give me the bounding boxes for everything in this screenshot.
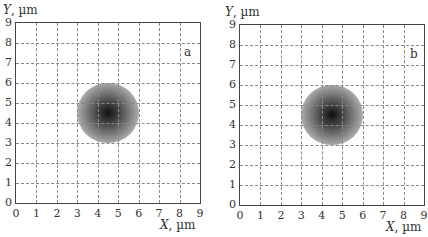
grid-line-horizontal [16, 83, 200, 84]
x-tick-label: 0 [10, 208, 22, 219]
grid-line-vertical [383, 25, 384, 205]
x-tick-label: 3 [295, 210, 307, 221]
y-tick-label: 4 [0, 117, 12, 128]
y-tick-label: 2 [0, 157, 12, 168]
y-tick-label: 1 [224, 179, 236, 190]
grid-line-vertical [77, 23, 78, 203]
grid-line-horizontal [240, 105, 424, 106]
grid-line-vertical [404, 25, 405, 205]
x-axis-unit: , µm [169, 218, 196, 232]
x-axis-var: X [386, 220, 395, 234]
grid-line-horizontal [240, 65, 424, 66]
y-tick-label: 1 [0, 177, 12, 188]
grid-line-vertical [180, 23, 181, 203]
x-tick-label: 1 [30, 208, 42, 219]
grid-line-vertical [281, 25, 282, 205]
panel-tag: b [410, 48, 418, 60]
y-tick-label: 0 [224, 199, 236, 210]
grid-line-vertical [139, 23, 140, 203]
plot-area [239, 24, 425, 206]
y-axis-label: Y, µm [3, 4, 38, 16]
x-tick-label: 5 [112, 208, 124, 219]
x-tick-label: 6 [133, 208, 145, 219]
y-tick-label: 5 [224, 99, 236, 110]
grid-line-vertical [36, 23, 37, 203]
y-axis-var: Y [225, 5, 233, 19]
y-tick-label: 9 [224, 19, 236, 30]
y-tick-label: 5 [0, 97, 12, 108]
grid-line-horizontal [240, 145, 424, 146]
x-tick-label: 2 [51, 208, 63, 219]
grid-line-horizontal [240, 125, 424, 126]
grid-line-vertical [159, 23, 160, 203]
intensity-spot [77, 83, 138, 143]
x-tick-label: 4 [316, 210, 328, 221]
grid-line-vertical [260, 25, 261, 205]
y-tick-label: 4 [224, 119, 236, 130]
x-tick-label: 5 [336, 210, 348, 221]
y-tick-label: 2 [224, 159, 236, 170]
grid-line-vertical [322, 25, 323, 205]
grid-line-horizontal [240, 185, 424, 186]
grid-line-horizontal [16, 43, 200, 44]
y-tick-label: 6 [0, 77, 12, 88]
x-axis-label: X, µm [386, 221, 421, 233]
grid-line-horizontal [16, 103, 200, 104]
grid-line-horizontal [240, 85, 424, 86]
x-axis-label: X, µm [160, 219, 195, 231]
grid-line-horizontal [240, 45, 424, 46]
x-tick-label: 0 [234, 210, 246, 221]
grid-line-vertical [301, 25, 302, 205]
y-tick-label: 8 [224, 39, 236, 50]
y-tick-label: 3 [0, 137, 12, 148]
grid-line-vertical [342, 25, 343, 205]
y-axis-unit: , µm [233, 5, 260, 19]
y-tick-label: 3 [224, 139, 236, 150]
x-axis-var: X [160, 218, 169, 232]
y-tick-label: 0 [0, 197, 12, 208]
y-axis-label: Y, µm [225, 6, 260, 18]
panel-a: Y, µm 0123456789 0123456789 a X, µm [0, 0, 214, 237]
x-tick-label: 4 [92, 208, 104, 219]
y-tick-label: 6 [224, 79, 236, 90]
grid-line-vertical [57, 23, 58, 203]
y-axis-var: Y [3, 3, 11, 17]
grid-line-horizontal [16, 183, 200, 184]
y-axis-unit: , µm [11, 3, 38, 17]
grid-line-horizontal [240, 165, 424, 166]
y-tick-label: 7 [224, 59, 236, 70]
x-tick-label: 6 [357, 210, 369, 221]
x-axis-unit: , µm [395, 220, 422, 234]
grid-line-horizontal [16, 163, 200, 164]
grid-line-horizontal [16, 143, 200, 144]
panel-tag: a [184, 46, 191, 58]
grid-line-vertical [118, 23, 119, 203]
grid-line-horizontal [16, 63, 200, 64]
grid-line-vertical [363, 25, 364, 205]
y-tick-label: 8 [0, 37, 12, 48]
x-tick-label: 1 [254, 210, 266, 221]
y-tick-label: 9 [0, 17, 12, 28]
y-tick-label: 7 [0, 57, 12, 68]
panel-b: Y, µm 0123456789 0123456789 b X, µm [214, 0, 428, 237]
plot-area [15, 22, 201, 204]
x-tick-label: 3 [71, 208, 83, 219]
x-tick-label: 9 [194, 208, 206, 219]
x-tick-label: 2 [275, 210, 287, 221]
grid-line-horizontal [16, 123, 200, 124]
grid-line-vertical [98, 23, 99, 203]
intensity-spot [301, 85, 362, 145]
